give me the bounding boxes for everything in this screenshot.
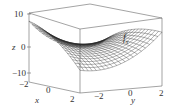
x-tick-2: 2 (70, 95, 75, 104)
surface-label-sub: x (126, 39, 129, 45)
x-axis-label: x (35, 96, 39, 105)
y-tick-minus2: −2 (94, 92, 104, 101)
y-axis-label: y (131, 96, 135, 105)
surface-label: fx (123, 33, 128, 45)
wireframe-surface (29, 21, 162, 71)
x-tick-0: 0 (46, 86, 51, 95)
z-tick-minus10: −10 (12, 69, 26, 78)
plot-box (29, 4, 162, 93)
y-tick-2: 2 (159, 89, 164, 98)
surface-plot (0, 0, 170, 107)
z-tick-10: 10 (14, 10, 23, 19)
x-tick-minus2: −2 (19, 80, 29, 89)
z-axis-label: z (12, 43, 16, 52)
z-tick-0: 0 (21, 43, 26, 52)
